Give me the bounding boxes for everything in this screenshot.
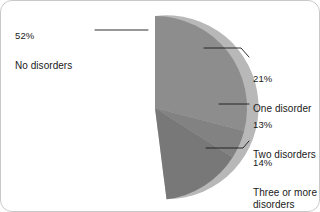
pie-label-three-or-more-name: Three or more disorders bbox=[253, 187, 317, 211]
pie-label-three-or-more: 14% Three or more disorders bbox=[253, 138, 317, 212]
pie-slices bbox=[155, 15, 259, 199]
pie-label-two-disorders-percent: 13% bbox=[253, 119, 316, 130]
pie-label-no-disorders-percent: 52% bbox=[15, 30, 72, 41]
pie-label-three-or-more-percent: 14% bbox=[253, 157, 317, 168]
pie-label-one-disorder-percent: 21% bbox=[253, 73, 311, 84]
pie-label-no-disorders: 52% No disorders bbox=[15, 11, 72, 91]
pie-label-no-disorders-name: No disorders bbox=[15, 60, 72, 72]
